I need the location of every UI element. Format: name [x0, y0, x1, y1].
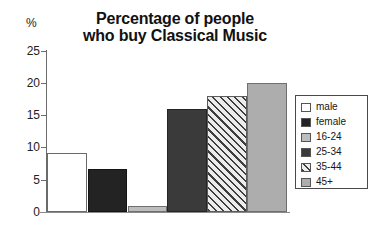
legend-label-45-plus: 45+ — [316, 177, 333, 187]
legend-item-female: female — [301, 115, 367, 129]
legend-label-female: female — [316, 117, 346, 127]
legend-item-16-24: 16-24 — [301, 130, 367, 144]
bar-chart: Percentage of people who buy Classical M… — [0, 0, 374, 238]
y-tick-label-0: 0 — [16, 206, 40, 218]
chart-title: Percentage of people who buy Classical M… — [56, 10, 294, 44]
bar-45-plus — [247, 83, 287, 212]
legend-label-16-24: 16-24 — [316, 132, 342, 142]
legend-swatch-45-plus — [301, 178, 311, 187]
legend-swatch-25-34 — [301, 148, 311, 157]
legend-item-45-plus: 45+ — [301, 175, 367, 189]
bar-25-34 — [167, 109, 207, 212]
legend-label-25-34: 25-34 — [316, 147, 342, 157]
y-axis-unit-label: % — [26, 16, 37, 30]
bar-female — [88, 169, 127, 212]
legend-label-male: male — [316, 102, 338, 112]
bar-male — [47, 153, 87, 212]
legend-swatch-male — [301, 103, 311, 112]
y-tick-label-20: 20 — [16, 77, 40, 89]
legend-item-35-44: 35-44 — [301, 160, 367, 174]
y-tick-label-10: 10 — [16, 141, 40, 153]
x-axis-line — [40, 212, 290, 213]
legend-item-25-34: 25-34 — [301, 145, 367, 159]
chart-legend: male female 16-24 25-34 35-44 45+ — [295, 95, 368, 189]
plot-area — [47, 51, 280, 212]
legend-swatch-35-44 — [301, 163, 311, 172]
chart-title-line-2: who buy Classical Music — [56, 27, 294, 44]
legend-label-35-44: 35-44 — [316, 162, 342, 172]
bar-35-44 — [207, 96, 247, 212]
y-tick-label-15: 15 — [16, 109, 40, 121]
legend-item-male: male — [301, 100, 367, 114]
y-tick-label-5: 5 — [16, 174, 40, 186]
chart-title-line-1: Percentage of people — [56, 10, 294, 27]
y-tick-label-25: 25 — [16, 45, 40, 57]
legend-swatch-16-24 — [301, 133, 311, 142]
legend-swatch-female — [301, 118, 311, 127]
bar-16-24 — [128, 206, 167, 212]
